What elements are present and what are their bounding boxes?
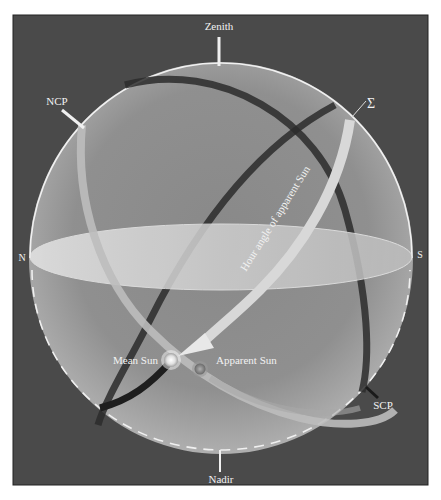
label-south: S [417, 249, 423, 260]
mean-sun-icon [161, 350, 181, 370]
label-nadir: Nadir [208, 473, 233, 485]
label-sigma: Σ [367, 96, 375, 111]
label-zenith: Zenith [205, 20, 234, 32]
label-ncp: NCP [46, 95, 67, 107]
horizon-plane [30, 224, 412, 290]
celestial-sphere-diagram: Zenith NCP Σ N S Hour angle of apparent … [0, 0, 441, 500]
label-scp: SCP [373, 399, 393, 411]
label-mean-sun: Mean Sun [113, 354, 158, 366]
apparent-sun-icon [192, 361, 208, 377]
label-north: N [18, 252, 25, 263]
label-apparent-sun: Apparent Sun [216, 354, 277, 366]
